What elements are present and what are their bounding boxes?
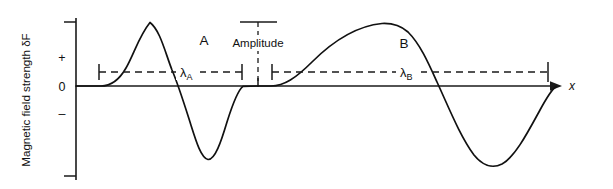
wave-a-label: A xyxy=(199,33,208,48)
lambda-a-subscript: A xyxy=(187,72,193,82)
y-tick-label-zero: 0 xyxy=(59,80,66,94)
wave-b-label: B xyxy=(399,36,408,51)
y-tick-label-negative: – xyxy=(59,107,66,121)
amplitude-label: Amplitude xyxy=(232,37,283,49)
x-axis-label: x xyxy=(568,79,576,93)
figure-canvas: + 0 – Magnetic field strength δF x A B λ… xyxy=(0,0,613,189)
magnetic-field-wave-figure: + 0 – Magnetic field strength δF x A B λ… xyxy=(0,0,613,189)
y-tick-label-positive: + xyxy=(58,51,65,65)
lambda-b-subscript: B xyxy=(407,72,413,82)
y-axis-title: Magnetic field strength δF xyxy=(19,33,32,166)
